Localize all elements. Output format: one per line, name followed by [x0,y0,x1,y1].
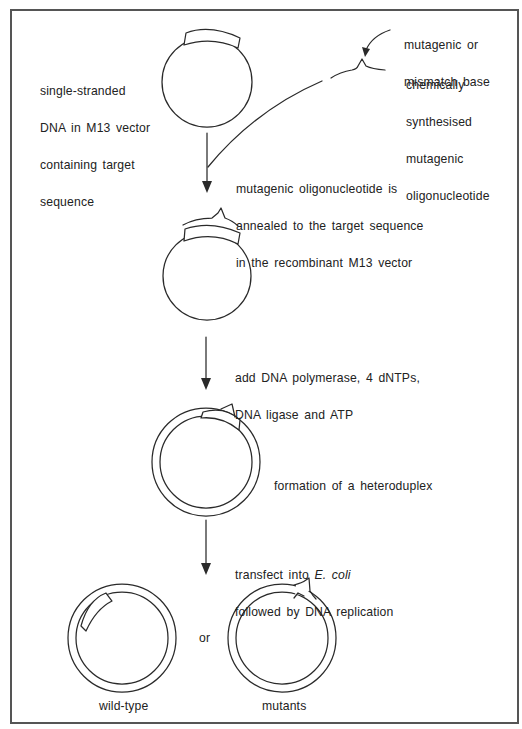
mismatch-pointer [366,30,390,50]
wild-type-circle [68,584,176,692]
arrow-step2 [201,337,211,390]
mutagenesis-diagram: mutagenic or mismatch base chemically sy… [0,0,522,729]
step4-prefix: transfect into [235,568,314,582]
ssdna-vector-label: single-stranded DNA in M13 vector contai… [40,60,150,234]
ssdna-vector-line: single-stranded [40,85,150,97]
mutants-label: mutants [262,700,306,712]
arrowhead-down-icon [201,563,211,575]
step2-polymerase-label: add DNA polymerase, 4 dNTPs, DNA ligase … [235,347,420,446]
oligonucleotide [208,30,390,167]
synthetic-oligo-line: chemically [406,79,490,91]
wild-type-label: wild-type [99,700,148,712]
ss-vector-circle [162,29,252,127]
step1-line: mutagenic oligonucleotide is [236,183,423,195]
arrow-step1 [202,133,212,193]
step4-line: transfect into E. coli [235,569,393,581]
or-label: or [199,632,210,644]
synthetic-oligo-line: synthesised [406,116,490,128]
step3-line: formation of a heteroduplex [274,480,432,492]
step1-annealing-label: mutagenic oligonucleotide is annealed to… [236,158,423,294]
step4-line: followed by DNA replication [235,606,393,618]
arrowhead-down-icon [201,378,211,390]
step1-line: annealed to the target sequence [236,220,423,232]
target-sequence-patch [184,225,240,244]
step3-heteroduplex-label: formation of a heteroduplex [274,455,432,517]
step2-line: DNA ligase and ATP [235,409,420,421]
ssdna-vector-line: containing target [40,159,150,171]
oligo-to-arrow-curve [208,81,322,167]
ssdna-vector-line: sequence [40,196,150,208]
arrowhead-down-icon [202,181,212,193]
step2-line: add DNA polymerase, 4 dNTPs, [235,372,420,384]
arrow-step3 [201,520,211,575]
ssdna-vector-line: DNA in M13 vector [40,122,150,134]
step4-transfect-label: transfect into E. coli followed by DNA r… [235,544,393,643]
annealed-oligo-with-kink [183,208,238,226]
organism-name: E. coli [314,568,350,582]
mismatch-base-line: mutagenic or [404,39,490,51]
target-sequence-patch [184,29,240,48]
mismatch-arrowhead-icon [362,47,370,57]
step1-line: in the recombinant M13 vector [236,257,423,269]
